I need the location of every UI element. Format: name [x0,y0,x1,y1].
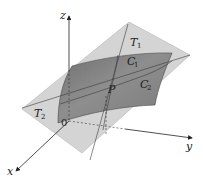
y-axis [125,129,192,138]
c1-subscript: 1 [134,61,138,69]
point-p-label: P [107,83,116,96]
x-axis [16,121,69,171]
c2-subscript: 2 [147,84,151,92]
t1-subscript: 1 [137,42,141,50]
origin-label: 0 [61,117,67,128]
tangent-plane-diagram: z x y 0 T 1 T 2 C 1 C 2 P [0,0,203,179]
x-axis-label: x [7,165,14,178]
t2-subscript: 2 [41,113,45,121]
z-axis-label: z [59,9,66,22]
y-axis-label: y [185,140,193,153]
